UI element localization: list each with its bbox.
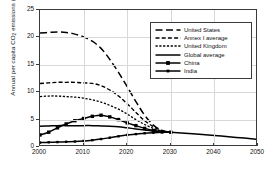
x-tick-label: 2000: [24, 148, 54, 155]
series-marker: [64, 122, 67, 125]
x-tick-mark: [257, 143, 258, 146]
legend-swatch-india: [155, 67, 181, 75]
series-marker: [108, 115, 111, 118]
y-tick-label: 0: [18, 142, 34, 149]
legend-item-united-states: United States: [155, 26, 247, 34]
legend-swatch-united-states: [155, 26, 181, 34]
y-tick-mark: [36, 119, 39, 120]
legend-swatch-united-kingdom: [155, 42, 181, 50]
x-tick-label: 2040: [198, 148, 228, 155]
y-tick-label: 25: [18, 5, 34, 12]
gridline-vertical: [127, 10, 128, 145]
series-marker: [40, 133, 42, 136]
series-line-india: [40, 132, 171, 142]
series-marker: [99, 114, 102, 117]
legend-item-china: China: [155, 59, 247, 67]
gridline-vertical: [84, 10, 85, 145]
series-marker: [91, 139, 93, 141]
y-tick-label: 15: [18, 60, 34, 67]
y-tick-mark: [36, 64, 39, 65]
series-marker: [109, 136, 111, 138]
legend-item-united-kingdom: United Kingdom: [155, 42, 247, 50]
legend-label-united-states: United States: [184, 26, 220, 34]
series-line-annex-i-average: [40, 82, 171, 132]
legend-label-india: India: [184, 67, 197, 75]
series-marker: [47, 131, 50, 134]
x-tick-mark: [170, 143, 171, 146]
y-axis-label-part1: Annual per capita CO: [9, 35, 16, 95]
series-marker: [48, 141, 50, 143]
y-tick-mark: [36, 9, 39, 10]
x-tick-mark: [39, 143, 40, 146]
x-tick-mark: [213, 143, 214, 146]
x-tick-mark: [83, 143, 84, 146]
legend-swatch-annex-i-average: [155, 34, 181, 42]
y-axis-label: Annual per capita CO2 emissions (tCO2): [9, 0, 16, 114]
legend-label-annex-i-average: Annex I average: [184, 34, 228, 42]
legend: United StatesAnnex I averageUnited Kingd…: [150, 22, 252, 79]
legend-item-global-average: Global average: [155, 51, 247, 59]
y-tick-label: 20: [18, 32, 34, 39]
x-tick-mark: [126, 143, 127, 146]
chart-figure: Annual per capita CO2 emissions (tCO2) 2…: [0, 0, 271, 171]
series-marker: [134, 124, 137, 127]
legend-swatch-global-average: [155, 51, 181, 59]
series-marker: [117, 135, 119, 137]
y-tick-mark: [36, 36, 39, 37]
series-marker: [100, 138, 102, 140]
legend-label-global-average: Global average: [184, 51, 225, 59]
legend-label-united-kingdom: United Kingdom: [184, 42, 227, 50]
x-tick-label: 2050: [242, 148, 271, 155]
series-marker: [152, 132, 154, 134]
y-tick-mark: [36, 91, 39, 92]
gridline-horizontal: [40, 92, 256, 93]
series-marker: [91, 115, 94, 118]
x-tick-label: 2030: [155, 148, 185, 155]
series-marker: [161, 131, 163, 133]
y-tick-label: 10: [18, 87, 34, 94]
series-marker: [56, 141, 58, 143]
y-axis-label-part2: emissions (tCO: [9, 0, 16, 33]
gridline-horizontal: [40, 120, 256, 121]
legend-item-annex-i-average: Annex I average: [155, 34, 247, 42]
series-marker: [143, 127, 146, 130]
series-marker: [74, 140, 76, 142]
series-marker: [40, 141, 41, 143]
y-tick-label: 5: [18, 115, 34, 122]
x-tick-label: 2010: [68, 148, 98, 155]
y-axis-label-sub1: 2: [12, 33, 17, 36]
legend-item-india: India: [155, 67, 247, 75]
legend-label-china: China: [184, 59, 200, 67]
y-tick-mark: [36, 146, 39, 147]
legend-swatch-china: [155, 59, 181, 67]
series-marker: [56, 126, 59, 129]
series-marker: [135, 133, 137, 135]
x-tick-label: 2020: [111, 148, 141, 155]
series-marker: [65, 141, 67, 143]
series-marker: [143, 132, 145, 134]
